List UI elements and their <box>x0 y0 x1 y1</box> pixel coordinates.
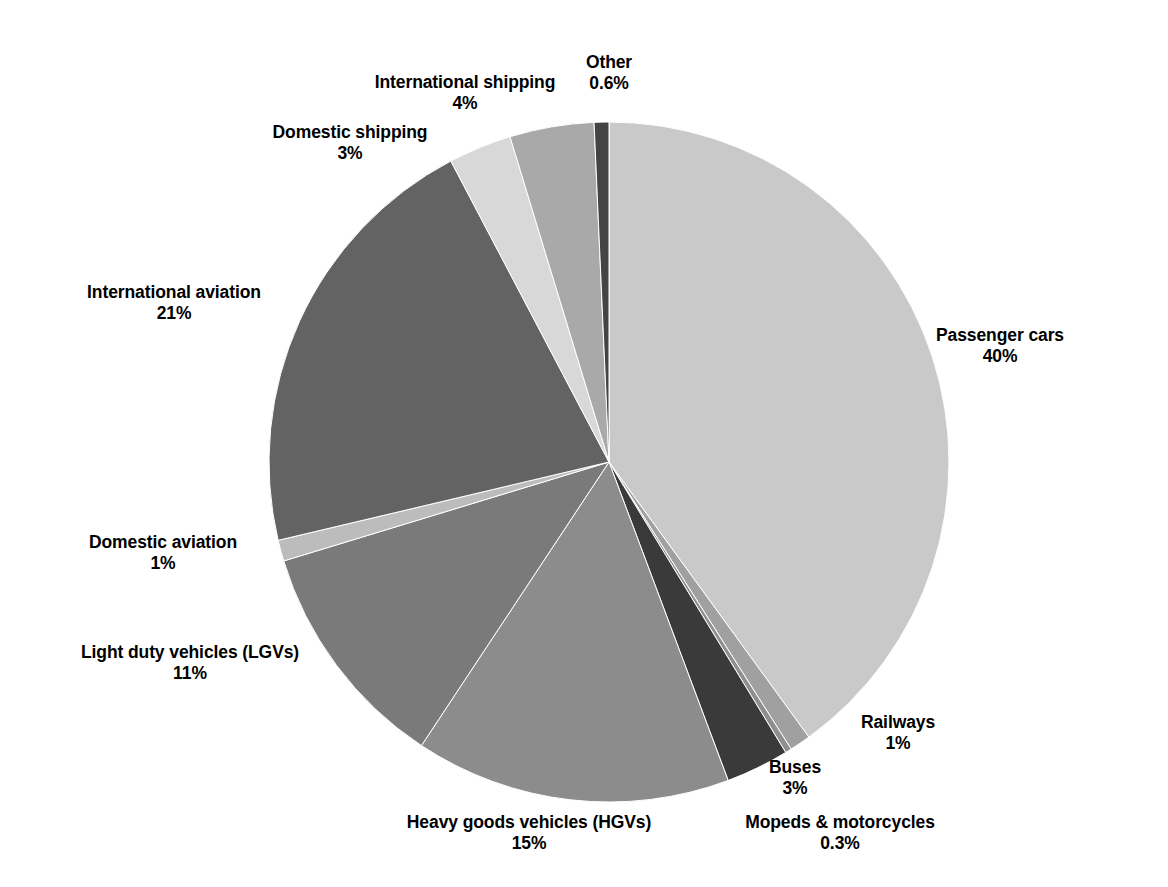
pie-label-value: 11% <box>81 663 299 684</box>
pie-slice-group <box>269 122 949 802</box>
pie-label-name: Other <box>586 52 632 73</box>
pie-label-name: Buses <box>769 757 821 778</box>
pie-label-name: Domestic shipping <box>273 122 428 143</box>
pie-label-value: 21% <box>87 303 261 324</box>
pie-label-name: Heavy goods vehicles (HGVs) <box>407 812 651 833</box>
pie-label-light-duty-vehicles-lgvs: Light duty vehicles (LGVs)11% <box>81 642 299 683</box>
pie-label-buses: Buses3% <box>769 757 821 798</box>
pie-label-name: Light duty vehicles (LGVs) <box>81 642 299 663</box>
pie-chart: Passenger cars40%Railways1%Mopeds & moto… <box>0 0 1168 887</box>
pie-label-international-aviation: International aviation21% <box>87 282 261 323</box>
pie-label-name: International aviation <box>87 282 261 303</box>
pie-label-international-shipping: International shipping4% <box>375 72 556 113</box>
pie-label-passenger-cars: Passenger cars40% <box>936 325 1064 366</box>
pie-label-value: 15% <box>407 833 651 854</box>
pie-label-value: 40% <box>936 346 1064 367</box>
pie-label-value: 1% <box>89 553 237 574</box>
pie-svg <box>0 0 1168 887</box>
pie-label-domestic-shipping: Domestic shipping3% <box>273 122 428 163</box>
pie-label-value: 1% <box>861 733 935 754</box>
pie-label-heavy-goods-vehicles-hgvs: Heavy goods vehicles (HGVs)15% <box>407 812 651 853</box>
pie-label-mopeds-and-motorcycles: Mopeds & motorcycles0.3% <box>745 812 935 853</box>
pie-label-other: Other0.6% <box>586 52 632 93</box>
pie-label-value: 3% <box>769 778 821 799</box>
pie-label-name: Mopeds & motorcycles <box>745 812 935 833</box>
pie-label-name: Passenger cars <box>936 325 1064 346</box>
pie-label-name: International shipping <box>375 72 556 93</box>
pie-label-value: 0.6% <box>586 73 632 94</box>
pie-label-value: 0.3% <box>745 833 935 854</box>
pie-label-value: 4% <box>375 93 556 114</box>
pie-label-value: 3% <box>273 143 428 164</box>
pie-label-railways: Railways1% <box>861 712 935 753</box>
pie-label-domestic-aviation: Domestic aviation1% <box>89 532 237 573</box>
pie-label-name: Domestic aviation <box>89 532 237 553</box>
pie-label-name: Railways <box>861 712 935 733</box>
